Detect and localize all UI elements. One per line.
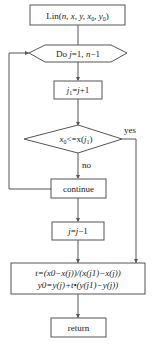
edge-label-yes: yes bbox=[124, 125, 136, 135]
node-start-label: Lin(n, x, y, x0, y0) bbox=[46, 11, 109, 22]
edge-continue-loop-back bbox=[9, 53, 51, 189]
node-return: return bbox=[51, 318, 106, 337]
node-decrement: j=j−1 bbox=[52, 222, 104, 240]
node-compute-line1: t=(x0−x(j))/(x(j1)−x(j)) bbox=[35, 268, 121, 278]
arrow-icon bbox=[76, 218, 80, 222]
arrow-icon bbox=[134, 259, 138, 263]
node-return-label: return bbox=[68, 323, 90, 333]
node-assign: j1=j+1 bbox=[54, 81, 102, 99]
arrow-icon bbox=[76, 175, 80, 179]
node-loop-label: Do j=1, n−1 bbox=[56, 49, 100, 59]
node-decision: x0<=x(j1) bbox=[24, 125, 122, 153]
flowchart: Lin(n, x, y, x0, y0) Do j=1, n−1 j1=j+1 … bbox=[0, 0, 157, 345]
node-loop: Do j=1, n−1 bbox=[29, 45, 127, 62]
node-compute: t=(x0−x(j))/(x(j1)−x(j)) y0=y(j)+t•(y(j1… bbox=[11, 263, 145, 294]
arrow-icon bbox=[25, 51, 29, 55]
arrow-icon bbox=[76, 259, 80, 263]
edge-label-no: no bbox=[82, 160, 92, 170]
arrow-icon bbox=[76, 77, 80, 81]
node-continue-label: continue bbox=[63, 184, 94, 194]
node-start: Lin(n, x, y, x0, y0) bbox=[30, 5, 125, 25]
edge-decision-compute-yes bbox=[122, 139, 136, 263]
node-continue: continue bbox=[51, 179, 106, 198]
arrow-icon bbox=[76, 314, 80, 318]
node-compute-line2: y0=y(j)+t•(y(j1)−y(j)) bbox=[37, 280, 118, 290]
node-decrement-label: j=j−1 bbox=[67, 226, 88, 236]
